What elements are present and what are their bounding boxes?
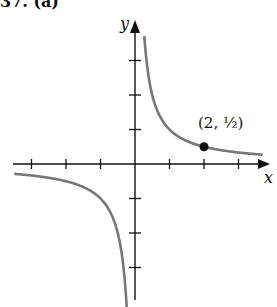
plot-area: [0, 0, 277, 307]
curve-branch-negative: [14, 174, 126, 307]
point-marker: [200, 142, 209, 151]
y-axis-arrow-icon: [130, 20, 140, 33]
x-axis-arrow-icon: [258, 159, 270, 169]
curve-branch-positive: [144, 36, 262, 155]
